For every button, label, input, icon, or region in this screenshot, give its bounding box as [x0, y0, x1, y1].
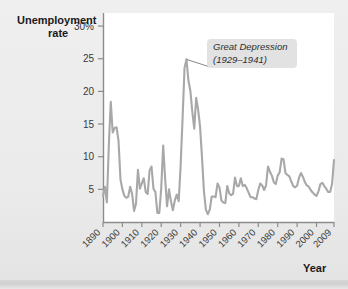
- y-axis-tick-label: 20: [83, 86, 95, 97]
- y-axis-ticks: [98, 26, 103, 189]
- y-axis-tick-labels: 30%252015105: [74, 21, 94, 195]
- y-axis-tick-label: 10: [83, 151, 95, 162]
- x-axis-tick-label: 1970: [235, 227, 258, 250]
- unemployment-rate-line-chart: 30%252015105 189019001910192019301940195…: [0, 0, 348, 289]
- y-axis-tick-label: 5: [88, 184, 94, 195]
- y-axis-title-line2: rate: [48, 27, 68, 39]
- x-axis-tick-label: 1900: [99, 227, 122, 250]
- chart-figure: 30%252015105 189019001910192019301940195…: [0, 0, 348, 289]
- x-axis-tick-label: 1950: [196, 227, 219, 250]
- x-axis-tick-label: 1930: [157, 227, 180, 250]
- x-axis-title: Year: [303, 262, 327, 274]
- x-axis-tick-label: 1980: [254, 227, 277, 250]
- annotation-label-line1: Great Depression: [213, 41, 287, 52]
- x-axis-tick-label: 2009: [311, 227, 334, 250]
- figure-bottom-edge: [0, 280, 348, 289]
- annotation-label-line2: (1929–1941): [213, 54, 267, 65]
- x-axis-tick-label: 1890: [80, 227, 103, 250]
- x-axis-tick-label: 1920: [138, 227, 161, 250]
- x-axis-tick-label: 1960: [216, 227, 239, 250]
- y-axis-tick-label: 15: [83, 119, 95, 130]
- x-axis-tick-label: 1910: [119, 227, 142, 250]
- y-axis-tick-label: 25: [83, 53, 95, 64]
- x-axis-tick-label: 1940: [177, 227, 200, 250]
- x-axis-tick-label: 1990: [274, 227, 297, 250]
- x-axis-tick-labels: 1890190019101920193019401950196019701980…: [80, 227, 334, 250]
- x-axis-tick-label: 2000: [293, 227, 316, 250]
- y-axis-title-line1: Unemployment: [17, 14, 97, 26]
